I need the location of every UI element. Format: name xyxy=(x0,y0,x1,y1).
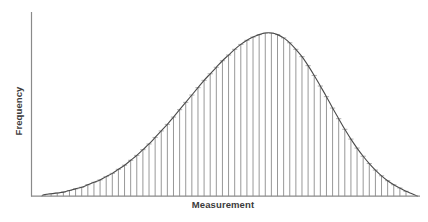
histogram-chart: Frequency Measurement xyxy=(0,0,428,222)
normal-distribution-curve xyxy=(42,33,419,196)
x-axis-label: Measurement xyxy=(0,199,428,210)
plot-area xyxy=(0,0,428,222)
y-axis-label: Frequency xyxy=(12,0,42,222)
